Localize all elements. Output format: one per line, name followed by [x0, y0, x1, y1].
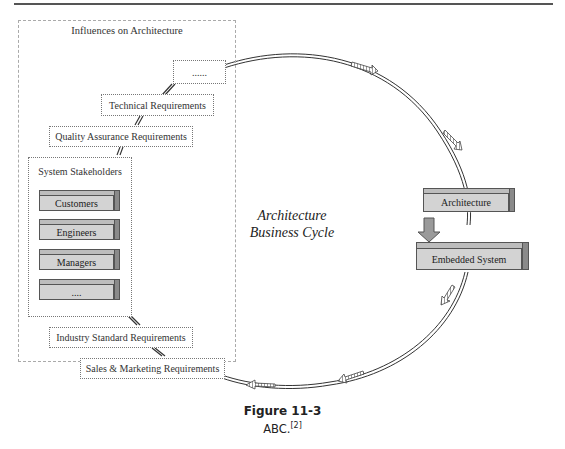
- influence-item-quality-assurance: Quality Assurance Requirements: [49, 126, 193, 147]
- cycle-label: Architecture Business Cycle: [232, 207, 352, 241]
- block-label: Embedded System: [416, 248, 522, 270]
- cycle-label-line2: Business Cycle: [232, 224, 352, 241]
- stakeholder-customers: Customers: [39, 190, 120, 211]
- figure-caption: ABC.[2]: [0, 421, 565, 436]
- figure-title: Figure 11-3: [0, 404, 565, 418]
- stakeholder-label: ....: [39, 284, 114, 300]
- influence-item-sales-marketing: Sales & Marketing Requirements: [80, 358, 225, 379]
- influence-item-label: ......: [192, 67, 207, 78]
- block-label: Architecture: [423, 193, 509, 212]
- stakeholder-managers: Managers: [39, 249, 120, 270]
- stakeholders-title: System Stakeholders: [29, 166, 131, 177]
- influence-item-label: Industry Standard Requirements: [56, 332, 185, 343]
- stakeholder-engineers: Engineers: [39, 219, 120, 240]
- influence-item-label: Technical Requirements: [109, 100, 206, 111]
- caption-text: ABC.: [263, 422, 290, 436]
- stakeholder-more: ....: [39, 279, 120, 300]
- stakeholder-label: Customers: [39, 195, 114, 211]
- influences-title: Influences on Architecture: [19, 25, 235, 36]
- reference-link[interactable]: [2]: [290, 421, 301, 430]
- influence-item-industry-standard: Industry Standard Requirements: [49, 327, 193, 348]
- influence-item-technical: Technical Requirements: [101, 94, 214, 116]
- block-architecture: Architecture: [423, 188, 515, 212]
- stakeholder-label: Engineers: [39, 224, 114, 240]
- block-embedded-system: Embedded System: [416, 242, 529, 270]
- down-arrow-icon: [418, 218, 440, 242]
- influence-item-label: Sales & Marketing Requirements: [86, 363, 220, 374]
- influence-item-label: Quality Assurance Requirements: [55, 131, 187, 142]
- stakeholder-label: Managers: [39, 254, 114, 270]
- cycle-label-line1: Architecture: [232, 207, 352, 224]
- influence-item-ellipsis: ......: [173, 60, 226, 84]
